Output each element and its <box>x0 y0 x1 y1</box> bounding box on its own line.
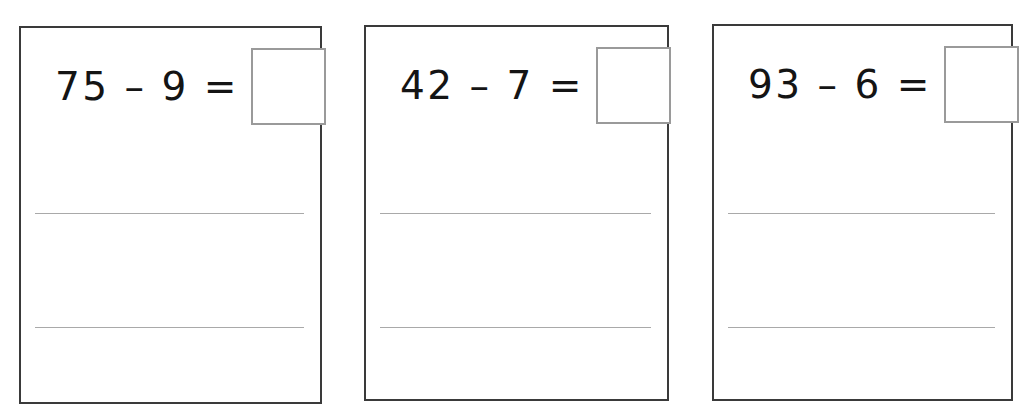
equation-row: 93 – 6 = <box>714 38 1011 130</box>
writing-line <box>35 213 304 214</box>
answer-box[interactable] <box>251 48 326 125</box>
writing-line <box>728 327 995 328</box>
equation-text: 93 – 6 = <box>748 65 932 104</box>
problem-card: 93 – 6 = <box>712 24 1013 401</box>
answer-box[interactable] <box>944 46 1019 123</box>
writing-line <box>380 213 651 214</box>
equation-text: 42 – 7 = <box>400 66 584 105</box>
writing-line <box>728 213 995 214</box>
writing-line <box>35 327 304 328</box>
problem-card: 75 – 9 = <box>19 26 322 404</box>
equation-row: 42 – 7 = <box>366 39 667 131</box>
writing-line <box>380 327 651 328</box>
equation-text: 75 – 9 = <box>55 67 239 106</box>
problem-card: 42 – 7 = <box>364 25 669 401</box>
worksheet-page: 75 – 9 = 42 – 7 = 93 – 6 = <box>0 0 1031 417</box>
answer-box[interactable] <box>596 47 671 124</box>
equation-row: 75 – 9 = <box>21 40 320 132</box>
